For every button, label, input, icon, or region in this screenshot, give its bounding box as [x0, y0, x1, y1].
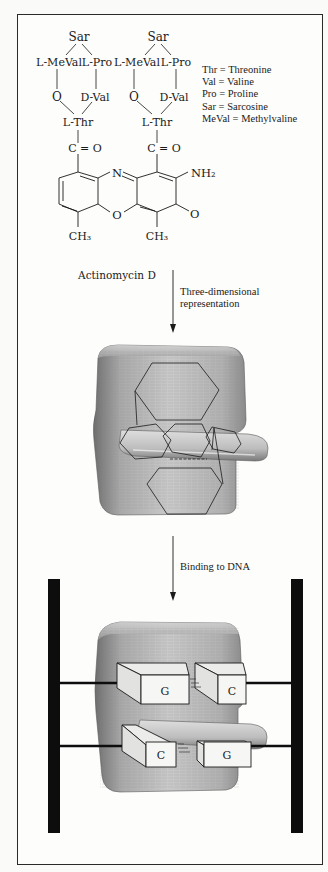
arrow-label-3d-line1: Three-dimensional	[180, 286, 259, 298]
base-label-g-lower: G	[223, 749, 232, 762]
carbonyl-left: C = O	[68, 142, 102, 155]
base-label-g-upper: G	[161, 685, 170, 698]
3d-block-model	[93, 345, 268, 515]
arrow-down-icon	[170, 536, 176, 601]
pro-right: L-Pro	[161, 56, 192, 69]
ring-oxygen: O	[112, 208, 121, 222]
dval-right: D-Val	[160, 91, 189, 104]
thr-left: L-Thr	[63, 116, 94, 129]
arrow-label-3d-line2: representation	[180, 298, 239, 310]
arrow-down-icon	[170, 270, 176, 333]
keto-oxygen: O	[190, 207, 199, 221]
carbonyl-right: C = O	[147, 142, 181, 155]
meval-left: L-MeVal	[36, 56, 82, 69]
actinomycin-diagram: Sar L-MeVal L-Pro O D-Val L-Thr C = O Sa…	[0, 0, 328, 872]
thr-right: L-Thr	[142, 116, 173, 129]
dna-complex: G C C G	[48, 579, 303, 833]
sar-left: Sar	[68, 30, 89, 44]
phenoxazone-rings	[59, 154, 189, 227]
legend-item-pro: Pro = Proline	[202, 88, 297, 100]
ester-o-right: O	[129, 90, 139, 104]
methyl-left: CH₃	[69, 230, 91, 243]
arrow-label-binding: Binding to DNA	[180, 561, 250, 573]
legend-item-val: Val = Valine	[202, 76, 297, 88]
abbreviation-legend: Thr = Threonine Val = Valine Pro = Proli…	[202, 64, 297, 125]
meval-right: L-MeVal	[114, 56, 160, 69]
dna-backbone-left	[48, 579, 60, 833]
legend-item-sar: Sar = Sarcosine	[202, 101, 297, 113]
pro-left: L-Pro	[82, 56, 113, 69]
dval-left: D-Val	[81, 91, 110, 104]
base-label-c-lower: C	[157, 749, 165, 762]
legend-item-thr: Thr = Threonine	[202, 64, 297, 76]
dna-backbone-right	[291, 579, 303, 833]
ester-o-left: O	[52, 90, 62, 104]
base-label-c-upper: C	[228, 685, 236, 698]
amino-group: NH₂	[191, 166, 216, 180]
legend-item-meval: MeVal = Methylvaline	[202, 113, 297, 125]
ring-nitrogen: N	[112, 166, 122, 180]
methyl-right: CH₃	[146, 230, 168, 243]
compound-name: Actinomycin D	[77, 269, 156, 281]
sar-right: Sar	[147, 30, 168, 44]
